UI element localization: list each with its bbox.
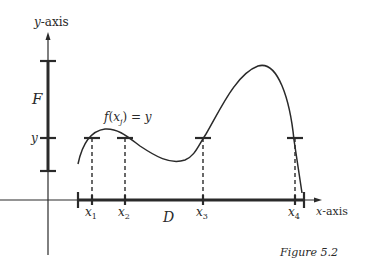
x-axis-label: x-axis (316, 205, 348, 218)
x-axis-arrow-icon (314, 198, 322, 203)
function-label: f(xj) = y (103, 110, 152, 126)
domain-label: D (162, 209, 174, 225)
y-axis-arrow-icon (46, 32, 51, 40)
x3-label: x3 (196, 205, 208, 221)
dashed-drop-lines (92, 138, 295, 200)
codomain-label: F (31, 90, 43, 108)
x1-label: x1 (85, 205, 97, 221)
y-axis-label: y-axis (33, 15, 69, 29)
figure-5-2: y-axis x-axis F y D (0, 0, 365, 276)
x2-label: x2 (118, 205, 130, 221)
function-curve (78, 65, 302, 193)
y-tick-label: y (30, 131, 38, 145)
domain-D-segment (78, 192, 304, 208)
x4-label: x4 (288, 205, 300, 221)
codomain-F-segment (40, 61, 56, 171)
figure-caption: Figure 5.2 (279, 246, 338, 259)
